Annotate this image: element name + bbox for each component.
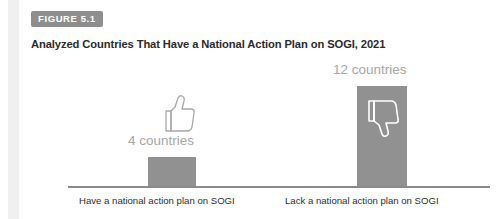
bar-lack-national-action-plan [357, 86, 407, 186]
thumbs-up-icon [157, 93, 197, 135]
figure-container: FIGURE 5.1 Analyzed Countries That Have … [0, 0, 500, 219]
category-label-lack: Lack a national action plan on SOGI [285, 195, 439, 206]
thumbs-down-icon [361, 96, 403, 140]
bar-have-national-action-plan [148, 157, 196, 186]
value-label-lack: 12 countries [333, 62, 407, 77]
bar-chart-plot-area: 4 countries 12 countries Have a national… [0, 0, 500, 219]
value-label-have: 4 countries [128, 133, 194, 148]
axis-baseline [68, 186, 490, 188]
category-label-have: Have a national action plan on SOGI [79, 195, 235, 206]
